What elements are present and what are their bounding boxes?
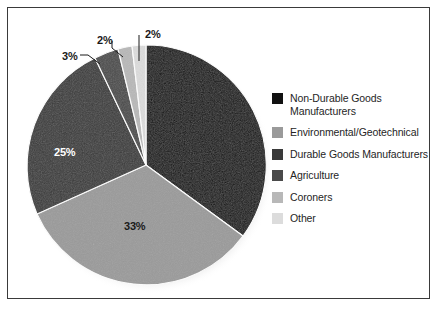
legend-item-agriculture[interactable]: Agriculture bbox=[272, 169, 430, 182]
pie-chart-area: 25% 33% 3% 2% 2% bbox=[8, 8, 270, 304]
pie-chart-graphic bbox=[8, 8, 270, 304]
pie-slices bbox=[27, 45, 266, 285]
legend-item-coroners[interactable]: Coroners bbox=[272, 191, 430, 204]
legend-label: Coroners bbox=[290, 191, 332, 204]
legend-item-durable-goods[interactable]: Durable Goods Manufacturers bbox=[272, 148, 430, 161]
legend-swatch-icon bbox=[272, 93, 283, 104]
pie-label-environmental: 33% bbox=[124, 220, 145, 232]
legend-swatch-icon bbox=[272, 213, 283, 224]
pie-chart-page: 25% 33% 3% 2% 2% Non-Durable Goods Manuf… bbox=[0, 0, 438, 312]
legend-swatch-icon bbox=[272, 170, 283, 181]
legend-item-environmental-geotechnical[interactable]: Environmental/Geotechnical bbox=[272, 126, 430, 139]
legend-swatch-icon bbox=[272, 127, 283, 138]
pie-label-coroners: 2% bbox=[97, 34, 113, 46]
chart-legend: Non-Durable Goods Manufacturers Environm… bbox=[272, 92, 430, 234]
legend-label: Non-Durable Goods Manufacturers bbox=[290, 92, 430, 117]
pie-label-agriculture: 3% bbox=[62, 50, 78, 62]
legend-swatch-icon bbox=[272, 149, 283, 160]
legend-item-non-durable-goods[interactable]: Non-Durable Goods Manufacturers bbox=[272, 92, 430, 117]
legend-label: Durable Goods Manufacturers bbox=[290, 148, 428, 161]
legend-swatch-icon bbox=[272, 192, 283, 203]
legend-item-other[interactable]: Other bbox=[272, 212, 430, 225]
pie-label-other: 2% bbox=[145, 28, 161, 40]
pie-label-durable-goods: 25% bbox=[54, 146, 75, 158]
legend-label: Agriculture bbox=[290, 169, 339, 182]
legend-label: Environmental/Geotechnical bbox=[290, 126, 419, 139]
legend-label: Other bbox=[290, 212, 316, 225]
